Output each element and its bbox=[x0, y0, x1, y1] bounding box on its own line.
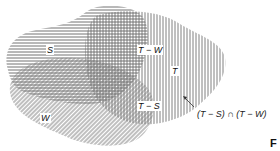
set-w-label: W bbox=[40, 113, 51, 123]
set-t-label: T bbox=[171, 66, 179, 76]
intersection-annotation: (T − S) ∩ (T − W) bbox=[197, 109, 266, 119]
venn-diagram bbox=[0, 0, 280, 151]
figure-marker: F bbox=[270, 137, 277, 149]
t-minus-s-label: T − S bbox=[137, 101, 161, 111]
t-minus-w-label: T − W bbox=[137, 45, 163, 55]
set-s-label: S bbox=[46, 45, 54, 55]
